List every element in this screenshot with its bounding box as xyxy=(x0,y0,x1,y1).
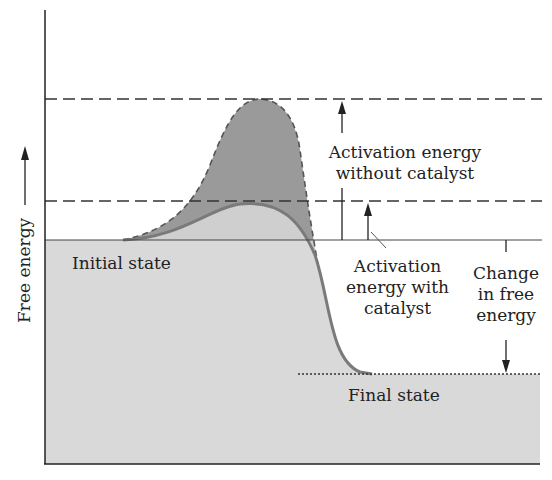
activation-with-line2: energy with xyxy=(330,277,465,298)
activation-without-line1: Activation energy xyxy=(310,142,500,163)
activation-with-label: Activation energy with catalyst xyxy=(330,256,465,319)
energy-diagram xyxy=(0,0,552,480)
activation-with-line3: catalyst xyxy=(330,298,465,319)
arrow-down-icon xyxy=(502,360,510,373)
change-line2: in free xyxy=(466,284,546,305)
initial-state-label: Initial state xyxy=(72,253,171,274)
change-line1: Change xyxy=(466,263,546,284)
arrow-up-icon xyxy=(364,203,372,216)
change-line3: energy xyxy=(466,305,546,326)
y-axis-label: Free energy xyxy=(14,218,34,323)
activation-without-label: Activation energy without catalyst xyxy=(310,142,500,184)
final-state-label: Final state xyxy=(348,385,440,406)
arrow-up-icon xyxy=(338,101,346,114)
activation-without-line2: without catalyst xyxy=(310,163,500,184)
change-free-energy-label: Change in free energy xyxy=(466,263,546,326)
initial-state-region xyxy=(45,203,540,464)
arrow-up-icon xyxy=(21,146,29,160)
activation-with-line1: Activation xyxy=(330,256,465,277)
